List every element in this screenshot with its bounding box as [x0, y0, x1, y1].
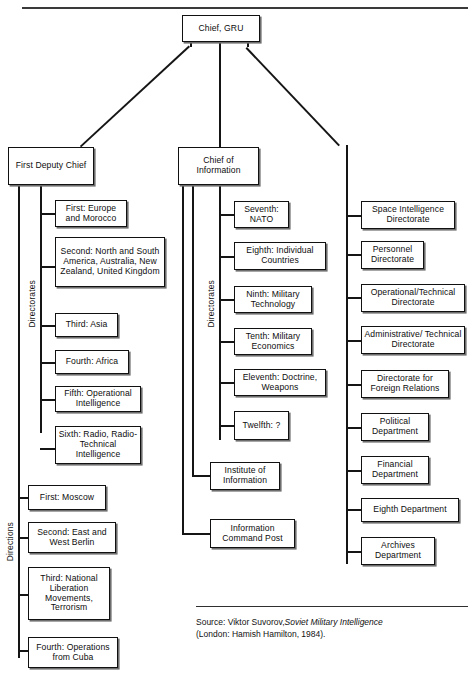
connector-tab-mid-command-post	[182, 533, 210, 535]
node-chief-gru[interactable]: Chief, GRU	[182, 15, 260, 42]
connector-root-stem-left	[190, 42, 192, 47]
spine-mid-directorates	[219, 185, 221, 440]
connector-tab-left-direction-1	[18, 497, 28, 499]
org-chart-figure: Chief, GRU First Deputy Chief Directorat…	[0, 0, 475, 678]
node-information-command-post[interactable]: Information Command Post	[210, 519, 295, 548]
node-left-directorate-5[interactable]: Fifth: Operational Intelligence	[55, 386, 141, 412]
bracket-label-left-directions: Directions	[5, 522, 15, 561]
node-right-unit-9-label: Archives Department	[364, 541, 432, 561]
node-mid-directorate-5-label: Eleventh: Doctrine, Weapons	[237, 373, 323, 393]
node-mid-directorate-1-label: Seventh: NATO	[237, 205, 286, 225]
node-chief-of-information[interactable]: Chief of Information	[178, 147, 259, 185]
connector-tab-mid-institute	[192, 475, 210, 477]
node-mid-directorate-2[interactable]: Eighth: Individual Countries	[234, 242, 326, 270]
connector-tab-right-6	[346, 427, 361, 429]
node-right-unit-5-label: Directorate for Foreign Relations	[364, 374, 446, 394]
node-chief-gru-label: Chief, GRU	[199, 24, 244, 34]
node-left-directorate-5-label: Fifth: Operational Intelligence	[58, 389, 138, 409]
source-work-title: Soviet Military Intelligence	[285, 617, 383, 627]
node-left-directorate-4[interactable]: Fourth: Africa	[55, 350, 129, 374]
spine-left-directorates	[40, 185, 42, 433]
connector-root-stem-mid	[219, 42, 221, 147]
connector-tab-left-direction-3	[18, 594, 28, 596]
node-mid-directorate-1[interactable]: Seventh: NATO	[234, 201, 289, 228]
node-left-directorate-4-label: Fourth: Africa	[66, 357, 119, 367]
node-left-directorate-3[interactable]: Third: Asia	[55, 313, 118, 337]
source-citation: Source: Viktor Suvorov,Soviet Military I…	[196, 616, 474, 641]
connector-tab-right-3	[346, 297, 361, 299]
source-prefix: Source:	[196, 617, 225, 627]
node-left-directorate-6[interactable]: Sixth: Radio, Radio-Technical Intelligen…	[55, 426, 141, 464]
connector-tab-mid-dir-3	[219, 299, 234, 301]
node-right-unit-4[interactable]: Administrative/ Technical Directorate	[361, 326, 465, 354]
connector-tab-left-direction-2	[18, 537, 28, 539]
node-mid-directorate-4[interactable]: Tenth: Military Economics	[234, 328, 312, 355]
connector-tab-left-dir-6	[40, 448, 55, 450]
connector-tab-right-4	[346, 340, 361, 342]
node-right-unit-8-label: Eighth Department	[373, 505, 446, 515]
node-right-unit-2-label: Personnel Directorate	[364, 245, 421, 265]
node-right-unit-1-label: Space Intelligence Directorate	[364, 205, 452, 225]
connector-tab-right-1	[346, 215, 361, 217]
node-left-directorate-2-label: Second: North and South America, Austral…	[58, 247, 162, 276]
spine-right-units	[346, 145, 348, 564]
node-right-unit-7[interactable]: Financial Department	[361, 456, 429, 484]
node-institute-of-information-label: Institute of Information	[213, 466, 277, 486]
node-right-unit-6[interactable]: Political Department	[361, 413, 429, 441]
connector-root-to-left-branch	[80, 46, 190, 148]
node-right-unit-2[interactable]: Personnel Directorate	[361, 241, 424, 269]
node-right-unit-7-label: Financial Department	[364, 460, 426, 480]
node-information-command-post-label: Information Command Post	[213, 524, 292, 544]
node-left-direction-3[interactable]: Third: National Liberation Movements, Te…	[28, 567, 110, 620]
connector-tab-left-direction-4	[18, 650, 28, 652]
node-first-deputy-chief-label: First Deputy Chief	[16, 161, 87, 171]
source-author: Viktor Suvorov,	[228, 617, 285, 627]
node-left-direction-2-label: Second: East and West Berlin	[31, 528, 113, 548]
node-first-deputy-chief[interactable]: First Deputy Chief	[8, 147, 94, 185]
node-left-directorate-1[interactable]: First: Europe and Morocco	[55, 200, 127, 227]
node-right-unit-3[interactable]: Operational/Technical Directorate	[361, 284, 465, 312]
connector-tab-mid-dir-1	[219, 214, 234, 216]
connector-tab-right-5	[346, 384, 361, 386]
node-mid-directorate-5[interactable]: Eleventh: Doctrine, Weapons	[234, 369, 326, 396]
node-left-direction-1-label: First: Moscow	[40, 493, 94, 503]
node-right-unit-5[interactable]: Directorate for Foreign Relations	[361, 370, 449, 398]
connector-tab-right-7	[346, 470, 361, 472]
node-chief-of-information-label: Chief of Information	[181, 156, 256, 176]
connector-tab-right-9	[346, 551, 361, 553]
node-right-unit-6-label: Political Department	[364, 417, 426, 437]
node-left-directorate-2[interactable]: Second: North and South America, Austral…	[55, 237, 165, 287]
connector-tab-left-dir-5	[40, 399, 55, 401]
connector-tab-mid-dir-2	[219, 256, 234, 258]
source-divider-rule	[196, 606, 468, 607]
node-left-direction-1[interactable]: First: Moscow	[28, 485, 106, 510]
node-left-direction-2[interactable]: Second: East and West Berlin	[28, 522, 116, 553]
top-divider-rule	[22, 7, 468, 9]
node-right-unit-1[interactable]: Space Intelligence Directorate	[361, 201, 455, 229]
node-right-unit-3-label: Operational/Technical Directorate	[364, 288, 462, 308]
node-institute-of-information[interactable]: Institute of Information	[210, 462, 280, 490]
connector-tab-left-dir-4	[40, 362, 55, 364]
spine-mid-institute	[192, 185, 194, 475]
connector-tab-left-dir-2	[40, 266, 55, 268]
node-left-directorate-3-label: Third: Asia	[66, 320, 108, 330]
connector-tab-right-8	[346, 509, 361, 511]
node-mid-directorate-2-label: Eighth: Individual Countries	[237, 246, 323, 266]
node-left-directorate-1-label: First: Europe and Morocco	[58, 204, 124, 224]
node-mid-directorate-3-label: Ninth: Military Technology	[237, 290, 309, 310]
spine-left-directions	[18, 185, 20, 658]
node-right-unit-8[interactable]: Eighth Department	[361, 498, 459, 522]
connector-tab-mid-dir-6	[219, 425, 234, 427]
node-mid-directorate-3[interactable]: Ninth: Military Technology	[234, 286, 312, 313]
bracket-label-mid-directorates: Directorates	[206, 280, 216, 328]
connector-tab-mid-dir-5	[219, 382, 234, 384]
node-right-unit-9[interactable]: Archives Department	[361, 537, 435, 565]
node-mid-directorate-6-label: Twelfth: ?	[243, 421, 281, 431]
node-mid-directorate-4-label: Tenth: Military Economics	[237, 332, 309, 352]
connector-tab-right-2	[346, 254, 361, 256]
node-mid-directorate-6[interactable]: Twelfth: ?	[234, 411, 289, 440]
node-left-direction-4[interactable]: Fourth: Operations from Cuba	[28, 637, 118, 668]
spine-mid-command-post	[182, 185, 184, 533]
connector-tab-left-dir-1	[40, 213, 55, 215]
node-left-direction-3-label: Third: National Liberation Movements, Te…	[31, 574, 107, 613]
